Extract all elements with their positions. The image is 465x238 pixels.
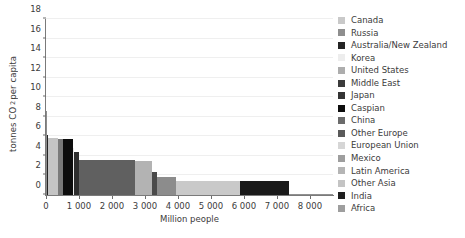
legend-item-european-union[interactable]: European Union <box>338 139 463 152</box>
legend-label: China <box>351 116 375 125</box>
bar-united-states <box>48 138 58 195</box>
bar-latin-america <box>176 181 241 195</box>
axes: 024681012141618 01 0002 0003 0004 0005 0… <box>46 19 333 195</box>
x-tick-mark <box>310 196 311 199</box>
x-axis-line <box>45 195 334 196</box>
legend-item-korea[interactable]: Korea <box>338 52 463 65</box>
y-tick-label: 12 <box>30 63 41 73</box>
bar-africa <box>289 194 333 195</box>
x-axis-label: Million people <box>46 214 333 224</box>
x-tick-label: 4 000 <box>166 201 190 211</box>
legend-label: India <box>351 192 372 201</box>
legend-item-japan[interactable]: Japan <box>338 89 463 102</box>
legend-item-africa[interactable]: Africa <box>338 202 463 215</box>
y-tick-label: 8 <box>36 102 41 112</box>
x-tick-label: 5 000 <box>199 201 223 211</box>
legend-item-canada[interactable]: Canada <box>338 14 463 27</box>
bar-india <box>240 181 288 195</box>
co2-per-capita-chart: tonnes CO2 per capita 024681012141618 01… <box>0 0 465 238</box>
bar-caspian <box>63 139 73 195</box>
x-tick-label: 1 000 <box>67 201 91 211</box>
x-tick-mark <box>277 196 278 199</box>
legend-label: Mexico <box>351 154 381 163</box>
legend-label: Korea <box>351 54 375 63</box>
y-axis-label: tonnes CO2 per capita <box>8 24 24 184</box>
bar-european-union <box>135 161 151 195</box>
bar-mexico <box>157 177 176 195</box>
legend-swatch-icon <box>338 167 345 174</box>
y-tick-label: 0 <box>36 180 41 190</box>
legend-swatch-icon <box>338 180 345 187</box>
legend-swatch-icon <box>338 17 345 24</box>
x-tick-label: 0 <box>43 201 48 211</box>
y-tick-label: 6 <box>36 121 41 131</box>
x-tick-label: 3 000 <box>133 201 157 211</box>
x-tick-label: 6 000 <box>232 201 256 211</box>
legend-item-caspian[interactable]: Caspian <box>338 102 463 115</box>
legend-item-other-asia[interactable]: Other Asia <box>338 177 463 190</box>
legend-item-other-europe[interactable]: Other Europe <box>338 127 463 140</box>
legend-swatch-icon <box>338 130 345 137</box>
x-tick-mark <box>244 196 245 199</box>
legend-label: Caspian <box>351 104 385 113</box>
legend-label: Latin America <box>351 167 410 176</box>
legend-item-russia[interactable]: Russia <box>338 27 463 40</box>
x-tick-label: 7 000 <box>265 201 289 211</box>
y-tick-label: 2 <box>36 160 41 170</box>
legend-item-china[interactable]: China <box>338 114 463 127</box>
x-tick-mark <box>112 196 113 199</box>
bar-series <box>46 19 333 195</box>
legend-swatch-icon <box>338 142 345 149</box>
legend-item-middle-east[interactable]: Middle East <box>338 77 463 90</box>
x-tick-mark <box>145 196 146 199</box>
legend-item-australia-new-zealand[interactable]: Australia/New Zealand <box>338 39 463 52</box>
x-tick-mark <box>211 196 212 199</box>
legend-swatch-icon <box>338 54 345 61</box>
legend-item-mexico[interactable]: Mexico <box>338 152 463 165</box>
x-tick-label: 2 000 <box>100 201 124 211</box>
legend-swatch-icon <box>338 29 345 36</box>
x-tick-mark <box>178 196 179 199</box>
chart-legend: CanadaRussiaAustralia/New ZealandKoreaUn… <box>338 14 463 215</box>
y-tick-label: 16 <box>30 24 41 34</box>
y-tick-label: 4 <box>36 141 41 151</box>
legend-swatch-icon <box>338 155 345 162</box>
legend-label: Russia <box>351 29 378 38</box>
bar-middle-east <box>79 160 135 195</box>
legend-swatch-icon <box>338 67 345 74</box>
legend-swatch-icon <box>338 92 345 99</box>
legend-swatch-icon <box>338 192 345 199</box>
legend-swatch-icon <box>338 205 345 212</box>
y-tick-label: 14 <box>30 43 41 53</box>
legend-label: Africa <box>351 204 375 213</box>
y-tick-label: 10 <box>30 82 41 92</box>
y-tick-label: 18 <box>30 4 41 14</box>
legend-label: Middle East <box>351 79 400 88</box>
legend-swatch-icon <box>338 80 345 87</box>
legend-item-latin-america[interactable]: Latin America <box>338 165 463 178</box>
legend-item-united-states[interactable]: United States <box>338 64 463 77</box>
legend-label: Other Asia <box>351 179 396 188</box>
x-tick-mark <box>79 196 80 199</box>
legend-label: United States <box>351 66 409 75</box>
x-tick-label: 8 000 <box>298 201 322 211</box>
legend-label: Canada <box>351 16 383 25</box>
legend-swatch-icon <box>338 105 345 112</box>
legend-swatch-icon <box>338 117 345 124</box>
legend-label: Other Europe <box>351 129 408 138</box>
legend-label: Japan <box>351 91 375 100</box>
legend-label: European Union <box>351 141 419 150</box>
x-tick-mark <box>46 196 47 199</box>
legend-item-india[interactable]: India <box>338 190 463 203</box>
legend-label: Australia/New Zealand <box>351 41 447 50</box>
plot-area: tonnes CO2 per capita 024681012141618 01… <box>0 0 335 238</box>
legend-swatch-icon <box>338 42 345 49</box>
